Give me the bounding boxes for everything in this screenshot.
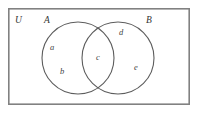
region-label-a: a xyxy=(50,43,54,52)
set-b-label: B xyxy=(146,16,152,26)
set-a-label: A xyxy=(44,16,50,26)
venn-diagram-graphics xyxy=(0,0,200,115)
region-label-d: d xyxy=(119,28,123,37)
set-a-circle xyxy=(42,22,114,94)
set-b-circle xyxy=(82,22,154,94)
region-label-e: e xyxy=(134,63,138,72)
universal-set-label: U xyxy=(15,16,22,26)
venn-diagram-canvas: U A B a b c d e xyxy=(0,0,200,115)
region-label-b: b xyxy=(60,67,64,76)
region-label-c: c xyxy=(96,53,100,62)
